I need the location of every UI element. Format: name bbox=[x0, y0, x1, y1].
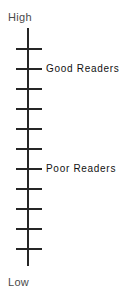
axis-tick bbox=[16, 68, 42, 70]
axis-tick bbox=[16, 208, 42, 210]
group-label-poor-readers: Poor Readers bbox=[46, 164, 116, 174]
scale-low-label: Low bbox=[8, 277, 29, 288]
axis-tick bbox=[16, 48, 42, 50]
axis-tick bbox=[16, 248, 42, 250]
scale-high-label: High bbox=[8, 12, 32, 23]
reading-ability-scale-figure: High Good ReadersPoor Readers Low bbox=[0, 0, 125, 299]
axis-tick bbox=[16, 188, 42, 190]
axis-tick bbox=[16, 228, 42, 230]
group-label-good-readers: Good Readers bbox=[46, 64, 119, 74]
vertical-axis-line bbox=[27, 28, 29, 266]
axis-tick bbox=[16, 88, 42, 90]
axis-tick bbox=[16, 108, 42, 110]
axis-tick bbox=[16, 148, 42, 150]
axis-tick bbox=[16, 168, 42, 170]
axis-tick bbox=[16, 128, 42, 130]
